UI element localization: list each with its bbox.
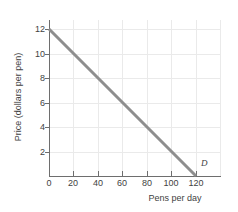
- chart-figure: 12 10 8 6 4 2 0 20 40 60 80 100 120 D Pr…: [0, 0, 238, 212]
- plot-area: 12 10 8 6 4 2 0 20 40 60 80 100 120 D Pr…: [0, 0, 238, 212]
- series-label-d: D: [201, 158, 208, 168]
- demand-curve: [0, 0, 238, 212]
- y-axis-title: Price (dollars per pen): [13, 27, 23, 167]
- x-axis-title: Pens per day: [120, 193, 230, 203]
